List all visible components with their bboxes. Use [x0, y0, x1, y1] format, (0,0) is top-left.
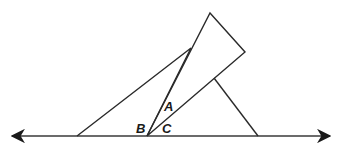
label-a: A	[163, 99, 173, 114]
label-c: C	[162, 121, 172, 136]
geometry-diagram: A B C	[0, 0, 337, 151]
right-triangle	[214, 78, 258, 136]
label-b: B	[136, 121, 145, 136]
rotated-rectangle	[147, 13, 245, 136]
left-triangle	[77, 48, 191, 136]
